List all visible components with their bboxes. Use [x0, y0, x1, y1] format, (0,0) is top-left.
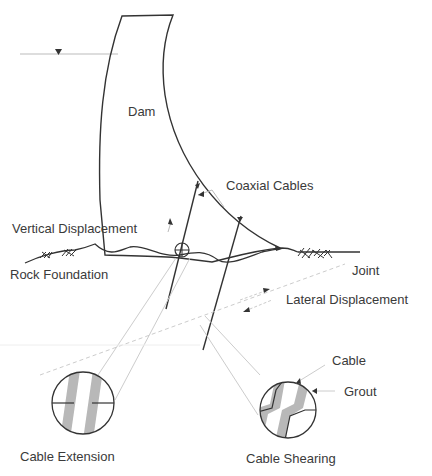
coaxial-cables-label: Coaxial Cables: [226, 179, 313, 192]
cable-extension-label: Cable Extension: [20, 450, 115, 463]
diagram-drawing: [0, 0, 432, 476]
lateral-arrow-left: [243, 307, 250, 312]
lateral-displacement-label: Lateral Displacement: [286, 293, 408, 306]
rock-foundation-label: Rock Foundation: [10, 268, 108, 281]
vertical-displacement-arrow: [168, 218, 173, 225]
cable-label: Cable: [332, 354, 366, 367]
grout-label: Grout: [344, 385, 377, 398]
vertical-displacement-label: Vertical Displacement: [12, 222, 137, 235]
cable-extension-detail: [52, 370, 114, 440]
dam-label: Dam: [128, 105, 155, 118]
diagram-canvas: Dam Coaxial Cables Vertical Displacement…: [0, 0, 432, 476]
cable-shearing-label: Cable Shearing: [246, 452, 336, 465]
rock-hatch-left: [40, 249, 76, 258]
coaxial-cable-2: [203, 216, 241, 350]
cable-shearing-detail: [252, 365, 335, 442]
rock-hatch-right: [298, 248, 332, 258]
joint-label: Joint: [352, 264, 379, 277]
